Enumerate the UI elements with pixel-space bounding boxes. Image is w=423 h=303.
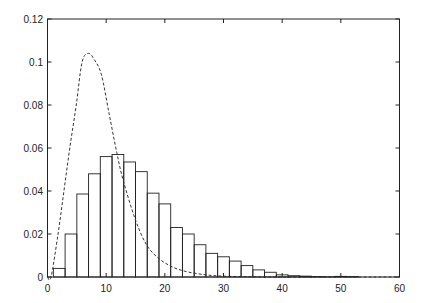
- y-tick-label: 0.08: [24, 100, 44, 111]
- y-tick-label: 0.04: [24, 186, 44, 197]
- x-tick-label: 50: [335, 283, 347, 294]
- histogram-bar: [253, 270, 265, 277]
- histogram-bar: [65, 234, 77, 277]
- y-tick-label: 0.06: [24, 143, 44, 154]
- histogram-bar: [100, 157, 112, 277]
- x-tick-label: 10: [101, 283, 113, 294]
- y-axis-ticks: 00.020.040.060.080.10.12: [24, 14, 400, 283]
- histogram-bar: [206, 253, 218, 277]
- x-axis-ticks: 0102030405060: [45, 19, 406, 294]
- histogram-bar: [229, 261, 241, 277]
- histogram-bar: [147, 193, 159, 277]
- histogram-bar: [77, 194, 89, 277]
- x-tick-label: 30: [218, 283, 230, 294]
- histogram-bar: [159, 204, 171, 277]
- x-tick-label: 60: [394, 283, 406, 294]
- x-tick-label: 0: [45, 283, 51, 294]
- histogram-bar: [53, 268, 65, 277]
- histogram-bar: [194, 245, 206, 277]
- y-tick-label: 0.1: [29, 57, 43, 68]
- histogram-bar: [124, 162, 136, 277]
- histogram-bar: [112, 154, 124, 277]
- histogram-chart: 0102030405060 00.020.040.060.080.10.12: [0, 0, 423, 303]
- histogram-bar: [89, 174, 101, 277]
- x-tick-label: 40: [277, 283, 289, 294]
- histogram-bars: [53, 154, 358, 277]
- y-tick-label: 0.02: [24, 229, 44, 240]
- y-tick-label: 0: [37, 272, 43, 283]
- y-tick-label: 0.12: [24, 14, 44, 25]
- histogram-bar: [241, 266, 253, 277]
- histogram-bar: [265, 272, 277, 277]
- x-tick-label: 20: [159, 283, 171, 294]
